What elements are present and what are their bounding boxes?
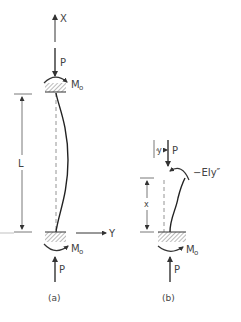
bottom-load-label: P — [59, 264, 65, 275]
height-label: x — [144, 200, 149, 209]
b-top-load-label: P — [172, 145, 178, 156]
b-deflected-segment — [170, 178, 185, 232]
caption-a: (a) — [48, 293, 61, 303]
bottom-moment-arrow — [44, 244, 68, 251]
x-axis-label: X — [60, 13, 67, 24]
deflection-label: y — [157, 146, 162, 155]
caption-b: (b) — [162, 293, 175, 303]
svg-text:o: o — [79, 248, 83, 256]
internal-moment-label: −EIy″ — [193, 167, 221, 178]
panel-b: y P −EIy″ x M o P (b) — [140, 140, 221, 303]
column-buckling-diagram: X P M o L Y M o P (a) — [0, 0, 241, 322]
svg-text:o: o — [194, 249, 198, 257]
length-label: L — [18, 158, 24, 169]
b-bottom-moment-arrow — [158, 246, 183, 251]
internal-moment-arrow — [170, 168, 189, 180]
top-fixed-support — [45, 83, 66, 92]
top-load-label: P — [60, 57, 66, 68]
y-axis-label: Y — [108, 228, 116, 239]
panel-a: X P M o L Y M o P (a) — [0, 13, 116, 303]
top-moment-arrow — [44, 77, 67, 83]
bottom-fixed-support — [45, 232, 66, 242]
svg-text:o: o — [79, 84, 83, 92]
b-bottom-load-label: P — [174, 264, 180, 275]
deflected-column — [56, 93, 68, 232]
b-fixed-support — [158, 232, 186, 242]
